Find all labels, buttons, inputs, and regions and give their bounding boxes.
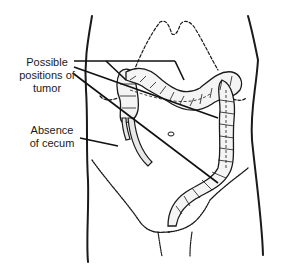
cecum-label-line2: of cecum (28, 137, 76, 150)
tumor-positions-label: Possible positions of tumor (16, 56, 78, 95)
cecum-label-line1: Absence (28, 124, 76, 137)
tumor-label-line3: tumor (16, 82, 78, 95)
pointer-cecum (80, 138, 118, 146)
thigh-right (190, 232, 192, 256)
pointer-tumor-1b (175, 61, 184, 80)
groin-line-left (92, 160, 170, 232)
navel (168, 132, 174, 136)
torso-right-outline (248, 16, 263, 255)
tumor-label-line2: positions of (16, 69, 78, 82)
ileum (122, 118, 152, 166)
thigh-left (158, 232, 162, 256)
diagram-canvas: Possible positions of tumor Absence of c… (0, 0, 281, 271)
tumor-label-line1: Possible (16, 56, 78, 69)
absence-of-cecum-label: Absence of cecum (28, 124, 76, 150)
